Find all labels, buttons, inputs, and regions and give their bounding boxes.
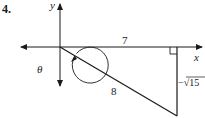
- trig-diagram: 4. y x θ 7 8 −√15: [0, 0, 205, 118]
- theta-label: θ: [37, 63, 43, 75]
- y-axis-label: y: [49, 0, 55, 11]
- x-axis-label: x: [193, 51, 199, 63]
- opposite-length-label: −√15: [178, 77, 199, 88]
- hypotenuse: [60, 47, 177, 116]
- right-angle-marker-icon: [170, 47, 177, 54]
- hypotenuse-length-label: 8: [111, 85, 117, 97]
- adjacent-length-label: 7: [122, 34, 128, 46]
- reference-triangle: [60, 47, 177, 116]
- problem-number: 4.: [2, 2, 11, 16]
